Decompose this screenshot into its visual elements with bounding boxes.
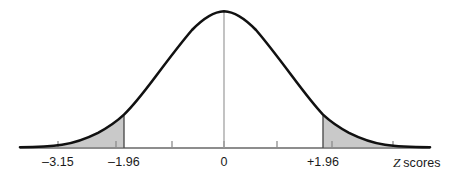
axis-label-pos-1-96: +1.96 (307, 156, 339, 169)
axis-label-neg-1-96: –1.96 (108, 156, 140, 169)
axis-label-zero: 0 (220, 156, 227, 169)
x-axis-caption: Z scores (393, 156, 441, 170)
normal-distribution-figure: –3.15 –1.96 0 +1.96 Z scores (0, 0, 458, 177)
scores-word: scores (401, 156, 441, 170)
normal-curve-path (20, 11, 430, 147)
z-symbol: Z (393, 155, 401, 170)
axis-label-neg-3-15: –3.15 (42, 156, 74, 169)
normal-curve-chart (0, 0, 458, 177)
